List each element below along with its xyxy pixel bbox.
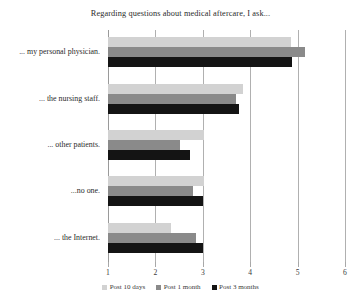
x-axis-tick-label: 3 [201,268,205,277]
x-axis-tick [298,262,299,267]
bar [108,140,180,150]
bar [108,176,204,186]
y-axis-category-label: ... my personal physician. [19,47,100,56]
legend-label: Post 3 months [219,283,259,291]
plot-area: 123456 [108,30,345,262]
legend-label: Post 10 days [110,283,145,291]
legend-swatch-icon [156,285,161,290]
bar [108,196,203,206]
x-axis-tick-label: 1 [106,268,110,277]
bar [108,37,291,47]
legend-item[interactable]: Post 1 month [156,283,200,291]
bar-group [108,37,345,67]
y-axis-category-label: ... other patients. [47,140,100,149]
bar-chart: Regarding questions about medical afterc… [0,0,361,308]
x-axis-tick-label: 4 [248,268,252,277]
x-axis-tick [108,262,109,267]
bar [108,84,243,94]
x-axis-tick [203,262,204,267]
legend-swatch-icon [212,285,217,290]
x-axis-tick-label: 6 [343,268,347,277]
x-axis-tick [345,262,346,267]
bar-group [108,130,345,160]
bar [108,94,236,104]
bar-group [108,84,345,114]
bar [108,47,305,57]
legend-item[interactable]: Post 3 months [212,283,259,291]
bar-group [108,176,345,206]
y-axis-category-label: ...no one. [71,186,100,195]
bar-group [108,223,345,253]
chart-legend: Post 10 daysPost 1 monthPost 3 months [0,283,361,291]
legend-swatch-icon [102,285,107,290]
bar [108,57,292,67]
x-axis-tick [250,262,251,267]
bar [108,243,203,253]
bar [108,233,196,243]
bar [108,150,190,160]
x-axis-tick-label: 5 [296,268,300,277]
y-axis-labels: ... my personal physician.... the nursin… [0,30,104,262]
bar [108,130,204,140]
x-axis-tick [155,262,156,267]
bar [108,104,239,114]
y-axis-category-label: ... the nursing staff. [39,94,100,103]
x-gridline [345,30,346,262]
y-axis-category-label: ... the Internet. [54,233,100,242]
legend-label: Post 1 month [164,283,201,291]
bar [108,186,193,196]
chart-title: Regarding questions about medical afterc… [0,9,361,18]
legend-item[interactable]: Post 10 days [102,283,145,291]
bar [108,223,171,233]
x-axis-tick-label: 2 [153,268,157,277]
